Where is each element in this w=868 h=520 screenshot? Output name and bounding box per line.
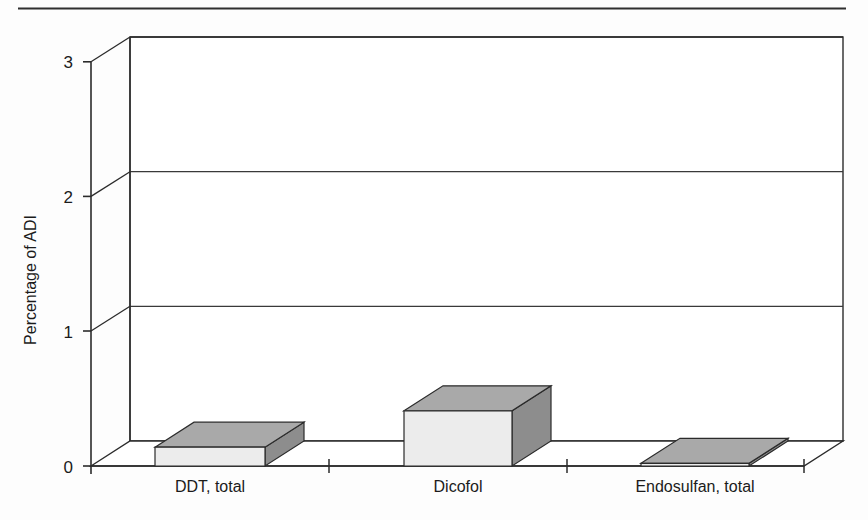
y-axis-title: Percentage of ADI xyxy=(22,215,39,345)
x-category-label-endosulfan-total: Endosulfan, total xyxy=(635,478,754,495)
depth-connector-1 xyxy=(91,306,130,331)
bar-dicofol xyxy=(404,386,551,466)
bar-ddt-total-front xyxy=(155,447,265,466)
x-category-label-dicofol: Dicofol xyxy=(434,478,483,495)
y-tick-label-0: 0 xyxy=(64,458,73,477)
x-category-label-ddt-total: DDT, total xyxy=(175,478,245,495)
depth-connector-2 xyxy=(91,172,130,197)
y-tick-label-1: 1 xyxy=(64,323,73,342)
plot-back-wall xyxy=(130,37,843,441)
depth-connectors xyxy=(91,37,130,331)
bar-dicofol-front xyxy=(404,411,512,466)
depth-connector-3 xyxy=(91,37,130,62)
y-tick-label-2: 2 xyxy=(64,188,73,207)
bar-endosulfan-total-front xyxy=(641,463,749,466)
bar-chart-svg: 0 1 2 3 Percentage of ADI xyxy=(0,0,868,520)
y-tick-label-3: 3 xyxy=(64,53,73,72)
y-axis xyxy=(83,37,130,474)
chart-figure: 0 1 2 3 Percentage of ADI xyxy=(0,0,868,520)
